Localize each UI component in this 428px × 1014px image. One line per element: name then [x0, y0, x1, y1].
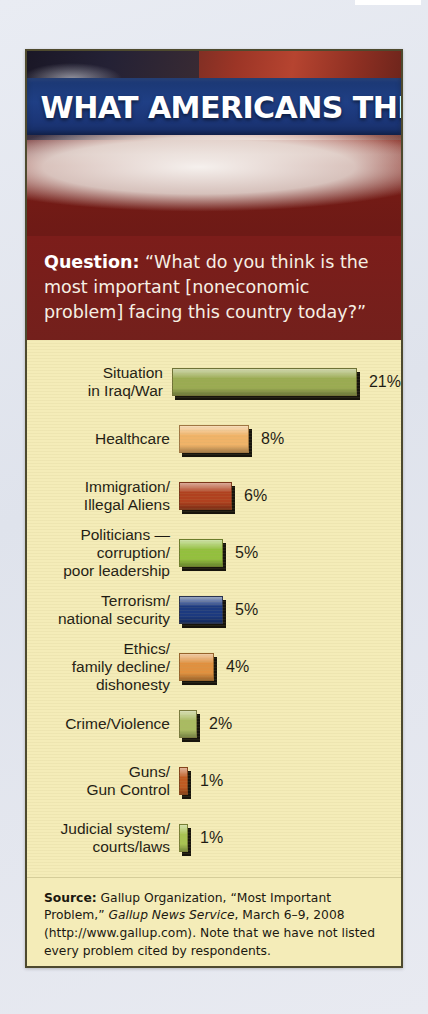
bar-row: Ethics/ family decline/ dishonesty4% [27, 639, 401, 696]
bar-category-label: Crime/Violence [27, 715, 179, 733]
source-note: Source: Gallup Organization, “Most Impor… [27, 877, 401, 968]
bar-category-label: Terrorism/ national security [27, 592, 179, 629]
bar-value-label: 5% [235, 544, 258, 562]
source-label: Source: [44, 891, 97, 905]
bar-row: Healthcare8% [27, 411, 401, 468]
question-label: Question: [44, 252, 139, 272]
bar [179, 596, 223, 624]
bar [172, 368, 357, 396]
bar-row: Crime/Violence2% [27, 696, 401, 753]
bar-value-label: 1% [200, 829, 223, 847]
bar [179, 482, 232, 510]
bar-track: 5% [179, 539, 401, 567]
bar-track: 21% [172, 368, 401, 396]
bar-category-label: Ethics/ family decline/ dishonesty [27, 640, 179, 695]
question-panel: Question: “What do you think is the most… [27, 236, 401, 340]
bar-row: Judicial system/ courts/laws1% [27, 810, 401, 867]
bar [179, 710, 197, 738]
bar-value-label: 6% [244, 487, 267, 505]
page-title: WHAT AMERICANS THINK [27, 79, 390, 135]
bar-row: Terrorism/ national security5% [27, 582, 401, 639]
bar-value-label: 8% [261, 430, 284, 448]
bar-category-label: Politicians — corruption/ poor leadershi… [27, 526, 179, 581]
bar-category-label: Healthcare [27, 430, 179, 448]
bar-chart: Situation in Iraq/War21%Healthcare8%Immi… [27, 340, 401, 877]
bar [179, 539, 223, 567]
bar-value-label: 5% [235, 601, 258, 619]
bar [179, 824, 188, 852]
bar-value-label: 1% [200, 772, 223, 790]
bar [179, 767, 188, 795]
bar-category-label: Guns/ Gun Control [27, 763, 179, 800]
bar [179, 653, 214, 681]
bar [179, 425, 249, 453]
bar-category-label: Situation in Iraq/War [27, 364, 172, 401]
bar-value-label: 21% [369, 373, 401, 391]
bar-category-label: Immigration/ Illegal Aliens [27, 478, 179, 515]
bar-category-label: Judicial system/ courts/laws [27, 820, 179, 857]
source-publication: Gallup News Service [108, 908, 234, 922]
bar-value-label: 4% [226, 658, 249, 676]
bar-row: Politicians — corruption/ poor leadershi… [27, 525, 401, 582]
bar-row: Guns/ Gun Control1% [27, 753, 401, 810]
bar-track: 1% [179, 824, 401, 852]
flag-header: WHAT AMERICANS THINK [27, 51, 401, 236]
flag-stripes-lower [27, 140, 401, 236]
bar-track: 8% [179, 425, 401, 453]
bar-track: 2% [179, 710, 401, 738]
bar-row: Situation in Iraq/War21% [27, 354, 401, 411]
bar-track: 5% [179, 596, 401, 624]
page-root: WHAT AMERICANS THINK Question: “What do … [0, 0, 428, 1014]
top-white-strip [355, 0, 421, 5]
bar-track: 6% [179, 482, 401, 510]
infographic-card: WHAT AMERICANS THINK Question: “What do … [25, 49, 403, 968]
bar-track: 1% [179, 767, 401, 795]
bar-value-label: 2% [209, 715, 232, 733]
bar-track: 4% [179, 653, 401, 681]
bar-row: Immigration/ Illegal Aliens6% [27, 468, 401, 525]
